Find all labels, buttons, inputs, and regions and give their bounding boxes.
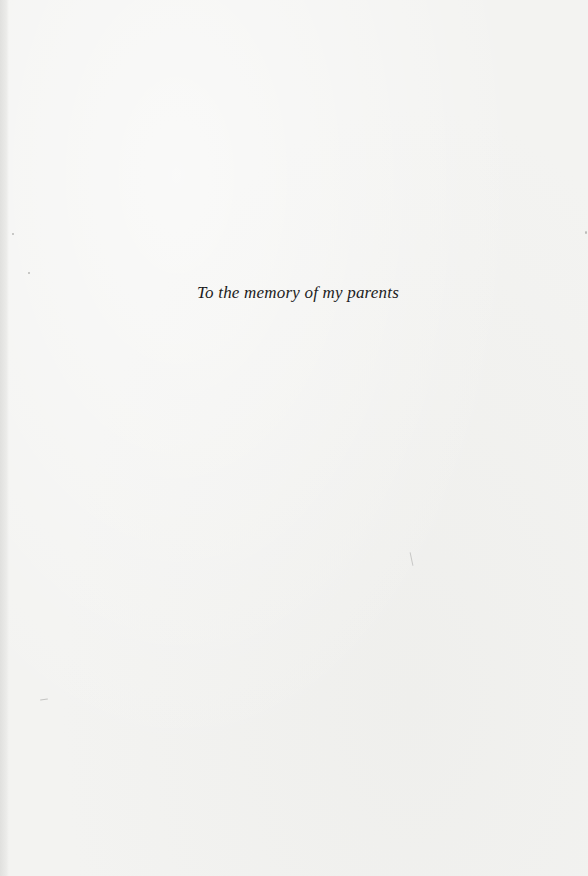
- scan-speck: [28, 272, 30, 274]
- page-binding-shadow: [0, 0, 9, 876]
- scan-speck: [40, 698, 48, 700]
- scan-speck: [585, 231, 587, 234]
- dedication-text: To the memory of my parents: [0, 283, 588, 303]
- scan-speck: [12, 233, 14, 235]
- scan-speck: [410, 552, 414, 566]
- book-page: To the memory of my parents: [0, 0, 588, 876]
